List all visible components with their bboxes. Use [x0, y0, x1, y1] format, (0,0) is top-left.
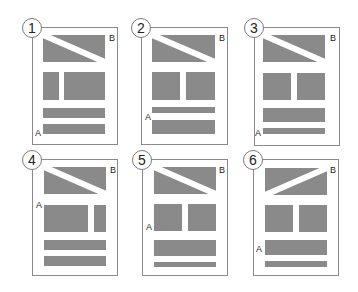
content-block — [265, 261, 327, 267]
content-block — [43, 124, 105, 134]
content-block — [44, 256, 106, 266]
hero-image-block — [154, 167, 216, 194]
content-block — [64, 72, 105, 100]
panel-number-badge: 5 — [132, 150, 152, 170]
content-block — [152, 120, 215, 134]
panel-number-badge: 4 — [22, 150, 42, 170]
label-a: A — [145, 112, 151, 122]
label-b: B — [330, 165, 336, 175]
content-block — [263, 73, 291, 100]
panel-number-badge: 1 — [22, 18, 42, 38]
content-block — [43, 72, 59, 100]
hero-image-block — [152, 35, 215, 62]
label-a: A — [146, 222, 152, 232]
content-block — [154, 240, 216, 256]
panel-number-badge: 3 — [244, 18, 264, 38]
panel-number-badge: 2 — [131, 18, 151, 38]
hero-image-block — [263, 35, 325, 62]
content-block — [265, 205, 293, 232]
content-block — [263, 108, 325, 122]
content-block — [152, 72, 180, 100]
content-block — [94, 205, 106, 232]
content-block — [152, 107, 215, 113]
label-a: A — [35, 128, 41, 138]
content-block — [265, 240, 327, 255]
content-block — [188, 204, 216, 231]
label-b: B — [219, 33, 225, 43]
content-block — [299, 205, 327, 232]
label-a: A — [255, 128, 261, 138]
label-b: B — [109, 33, 115, 43]
label-b: B — [219, 165, 225, 175]
content-block — [44, 205, 88, 232]
label-a: A — [36, 200, 42, 210]
content-block — [186, 72, 215, 100]
content-block — [43, 108, 105, 118]
content-block — [44, 240, 106, 250]
label-b: B — [110, 165, 116, 175]
panel-number-badge: 6 — [243, 150, 263, 170]
hero-image-block — [265, 168, 327, 195]
content-block — [297, 73, 325, 100]
label-a: A — [256, 244, 262, 254]
hero-image-block — [44, 167, 106, 194]
hero-image-block — [43, 35, 105, 62]
content-block — [263, 128, 325, 134]
label-b: B — [330, 33, 336, 43]
content-block — [154, 204, 182, 231]
content-block — [154, 262, 216, 267]
